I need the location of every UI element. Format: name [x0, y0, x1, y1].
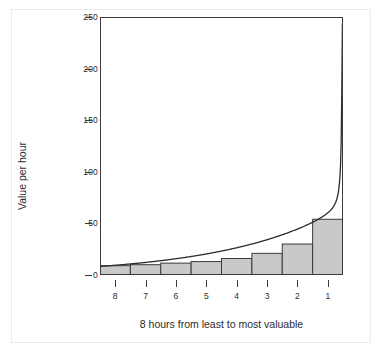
x-tick-mark-2 — [297, 280, 298, 287]
y-tick-mark-100 — [85, 172, 92, 173]
y-axis-ticks: 050100150200250 — [58, 17, 98, 275]
plot-area — [100, 17, 343, 275]
x-tick-label-2: 2 — [295, 291, 300, 301]
y-tick-mark-50 — [85, 223, 92, 224]
x-tick-mark-1 — [328, 280, 329, 287]
x-tick-mark-7 — [146, 280, 147, 287]
chart-page: Value per hour 050100150200250 87654321 … — [0, 0, 382, 352]
bar-3 — [252, 253, 282, 275]
y-tick-mark-200 — [85, 69, 92, 70]
y-axis-title: Value per hour — [16, 101, 28, 251]
y-tick-mark-150 — [85, 120, 92, 121]
bar-6 — [161, 263, 191, 275]
x-tick-label-4: 4 — [234, 291, 239, 301]
x-axis-ticks: 87654321 — [100, 275, 343, 315]
x-tick-label-1: 1 — [325, 291, 330, 301]
x-tick-label-7: 7 — [143, 291, 148, 301]
x-tick-label-8: 8 — [113, 291, 118, 301]
x-tick-label-6: 6 — [174, 291, 179, 301]
bar-7 — [130, 265, 160, 275]
bar-1 — [313, 219, 343, 275]
y-tick-mark-250 — [85, 17, 92, 18]
bar-2 — [282, 244, 312, 275]
x-tick-label-5: 5 — [204, 291, 209, 301]
x-tick-mark-3 — [267, 280, 268, 287]
marginal-value-curve — [100, 23, 343, 267]
x-tick-mark-8 — [115, 280, 116, 287]
chart-canvas — [100, 17, 343, 275]
y-tick-mark-0 — [85, 275, 92, 276]
bar-8 — [100, 266, 130, 275]
bar-5 — [191, 262, 221, 275]
x-tick-mark-5 — [206, 280, 207, 287]
bar-4 — [222, 258, 252, 275]
x-tick-mark-4 — [237, 280, 238, 287]
x-tick-label-3: 3 — [265, 291, 270, 301]
y-tick-label-0: 0 — [93, 270, 98, 280]
x-tick-mark-6 — [176, 280, 177, 287]
x-axis-title: 8 hours from least to most valuable — [100, 318, 343, 330]
